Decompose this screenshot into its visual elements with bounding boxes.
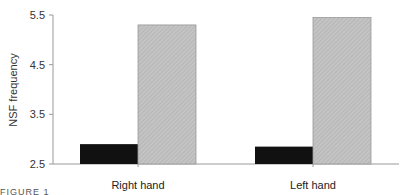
y-tick-label: 3.5 (30, 108, 45, 120)
bar-left-hand-hatched (313, 17, 371, 164)
bar-right-hand-solid (80, 144, 138, 164)
y-tick-label: 5.5 (30, 9, 45, 21)
y-axis-title: NSF frequency (7, 53, 19, 127)
y-tick-label: 2.5 (30, 158, 45, 170)
bars (80, 17, 371, 164)
bar-left-hand-solid (255, 147, 313, 164)
x-category-label: Left hand (290, 179, 336, 191)
x-category-label: Right hand (111, 179, 164, 191)
x-category-labels: Right handLeft hand (111, 164, 336, 191)
bar-chart: 2.53.54.55.5 Right handLeft hand NSF fre… (0, 0, 406, 195)
bar-right-hand-hatched (138, 25, 196, 164)
y-tick-label: 4.5 (30, 59, 45, 71)
figure-caption: FIGURE 1 (0, 187, 50, 195)
y-ticks: 2.53.54.55.5 (30, 9, 53, 170)
